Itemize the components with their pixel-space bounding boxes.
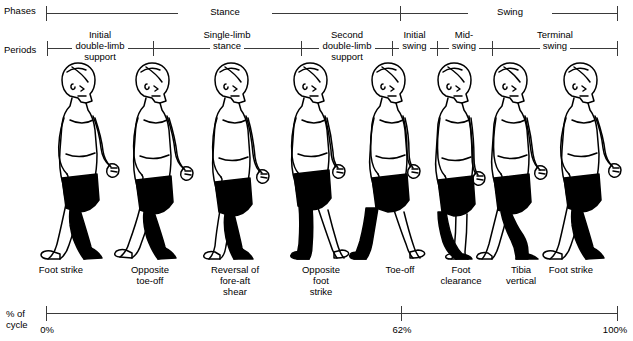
- event-line-2: fore-aft: [192, 275, 278, 286]
- period-line-2: stance: [210, 40, 244, 51]
- percent-tick-0: [46, 306, 47, 321]
- phases-row-label: Phases: [4, 5, 36, 16]
- phase-segment-swing-label: Swing: [497, 6, 523, 17]
- event-caption-foot-strike-end: Foot strike: [528, 264, 614, 275]
- event-line-1: Foot strike: [528, 264, 614, 275]
- period-line-2: double-limb: [72, 40, 127, 51]
- phases-tick-end: [617, 6, 618, 21]
- event-line-3: strike: [280, 286, 362, 297]
- event-caption-foot-clearance: Foot clearance: [428, 264, 494, 286]
- event-caption-reversal-fore-aft-shear: Reversal of fore-aft shear: [192, 264, 278, 297]
- event-caption-opposite-toe-off: Opposite toe-off: [108, 264, 192, 286]
- periods-tick-4: [437, 41, 438, 56]
- periods-row-label: Periods: [4, 44, 36, 55]
- period-line-1: Single-limb: [187, 29, 267, 40]
- event-line-1: Opposite: [108, 264, 192, 275]
- event-line-2: foot: [280, 275, 362, 286]
- figure-foot-strike: [36, 58, 122, 263]
- percent-label-line-1: % of: [6, 308, 28, 319]
- event-caption-opposite-foot-strike: Opposite foot strike: [280, 264, 362, 297]
- event-line-3: shear: [192, 286, 278, 297]
- gait-figure-strip: [0, 58, 633, 263]
- period-line-2: double-limb: [319, 40, 374, 51]
- phases-tick-start: [46, 6, 47, 21]
- periods-tick-5: [492, 41, 493, 56]
- event-line-1: Foot: [428, 264, 494, 275]
- percent-tick-100: [617, 306, 618, 321]
- event-line-2: clearance: [428, 275, 494, 286]
- periods-tick-2: [301, 41, 302, 56]
- event-line-1: Opposite: [280, 264, 362, 275]
- period-line-2: swing: [540, 40, 570, 51]
- period-line-1: Terminal: [516, 29, 594, 40]
- phase-segment-stance-label: Stance: [210, 6, 240, 17]
- percent-axis: [46, 313, 618, 314]
- period-caption-single-limb-stance: Single-limb stance: [187, 29, 267, 51]
- period-caption-initial-swing: Initial swing: [394, 29, 435, 51]
- percent-caption-100: 100%: [596, 324, 633, 335]
- event-caption-foot-strike: Foot strike: [18, 264, 104, 275]
- periods-tick-6: [617, 41, 618, 56]
- figure-reversal-fore-aft-shear: [190, 58, 276, 263]
- event-line-1: Toe-off: [368, 264, 432, 275]
- phases-tick-stance-swing: [400, 6, 401, 21]
- period-caption-terminal-swing: Terminal swing: [516, 29, 594, 51]
- phase-segment-swing: Swing: [468, 7, 552, 18]
- periods-tick-1: [153, 41, 154, 56]
- event-line-2: toe-off: [108, 275, 192, 286]
- period-line-1: Mid-: [440, 29, 488, 40]
- figure-foot-strike-end: [538, 58, 624, 263]
- phase-segment-stance: Stance: [178, 7, 272, 18]
- figure-opposite-foot-strike: [268, 58, 354, 263]
- event-line-1: Foot strike: [18, 264, 104, 275]
- percent-caption-62: 62%: [385, 324, 419, 335]
- event-line-1: Reversal of: [192, 264, 278, 275]
- periods-tick-0: [47, 41, 48, 56]
- percent-label-line-2: cycle: [6, 319, 28, 330]
- period-line-2: swing: [449, 40, 479, 51]
- event-caption-toe-off: Toe-off: [368, 264, 432, 275]
- period-line-1: Second: [311, 29, 383, 40]
- percent-tick-62: [401, 306, 402, 321]
- period-line-1: Initial: [60, 29, 140, 40]
- percent-caption-0: 0%: [32, 324, 62, 335]
- period-line-2: swing: [399, 40, 429, 51]
- percent-row-label: % of cycle: [6, 308, 28, 330]
- period-line-1: Initial: [394, 29, 435, 40]
- period-caption-mid-swing: Mid- swing: [440, 29, 488, 51]
- figure-opposite-toe-off: [112, 58, 198, 263]
- event-line-2: vertical: [490, 275, 552, 286]
